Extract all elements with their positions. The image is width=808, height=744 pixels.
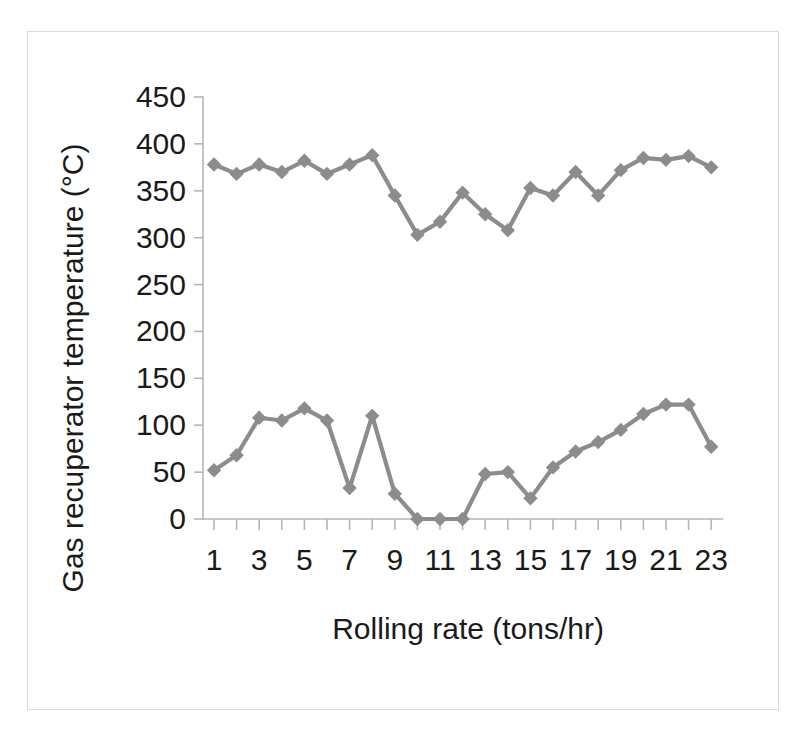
y-tick-label: 150 xyxy=(136,361,186,394)
data-point-marker xyxy=(455,512,469,526)
data-point-marker xyxy=(704,160,718,174)
x-tick-label: 11 xyxy=(424,543,455,576)
y-tick-label: 450 xyxy=(136,80,186,113)
data-point-marker xyxy=(275,165,289,179)
data-point-marker xyxy=(207,157,221,171)
data-point-marker xyxy=(433,512,447,526)
data-point-marker xyxy=(342,481,356,495)
x-tick-label: 9 xyxy=(386,543,403,576)
y-tick-label: 0 xyxy=(169,502,186,535)
y-axis-ticks: 050100150200250300350400450 xyxy=(136,80,203,535)
x-tick-label: 5 xyxy=(296,543,313,576)
series-line-lower xyxy=(214,405,711,519)
x-axis-ticks: 1357911131517192123 xyxy=(206,519,728,576)
series-group xyxy=(207,148,719,526)
x-tick-label: 15 xyxy=(514,543,547,576)
data-series-upper xyxy=(207,148,719,242)
figure-frame: 0501001502002503003504004501357911131517… xyxy=(27,31,779,710)
y-tick-label: 200 xyxy=(136,314,186,347)
data-point-marker xyxy=(252,157,266,171)
x-tick-label: 19 xyxy=(604,543,637,576)
y-tick-label: 250 xyxy=(136,268,186,301)
data-point-marker xyxy=(365,409,379,423)
data-point-marker xyxy=(681,149,695,163)
y-tick-label: 400 xyxy=(136,127,186,160)
x-tick-label: 13 xyxy=(469,543,502,576)
x-tick-label: 1 xyxy=(206,543,223,576)
y-tick-label: 350 xyxy=(136,174,186,207)
y-tick-label: 100 xyxy=(136,408,186,441)
data-point-marker xyxy=(478,467,492,481)
line-chart: 0501001502002503003504004501357911131517… xyxy=(28,32,780,711)
x-tick-label: 17 xyxy=(559,543,592,576)
x-tick-label: 21 xyxy=(649,543,682,576)
x-tick-label: 7 xyxy=(341,543,358,576)
data-point-marker xyxy=(342,157,356,171)
x-axis-title: Rolling rate (tons/hr) xyxy=(332,612,604,645)
y-axis-title: Gas recuperator temperature (°C) xyxy=(56,144,89,593)
data-point-marker xyxy=(659,153,673,167)
x-tick-label: 23 xyxy=(695,543,728,576)
y-tick-label: 300 xyxy=(136,221,186,254)
chart-plot-area: 0501001502002503003504004501357911131517… xyxy=(28,32,780,711)
data-series-lower xyxy=(207,397,719,526)
y-tick-label: 50 xyxy=(153,455,186,488)
data-point-marker xyxy=(229,167,243,181)
data-point-marker xyxy=(659,397,673,411)
x-tick-label: 3 xyxy=(251,543,268,576)
